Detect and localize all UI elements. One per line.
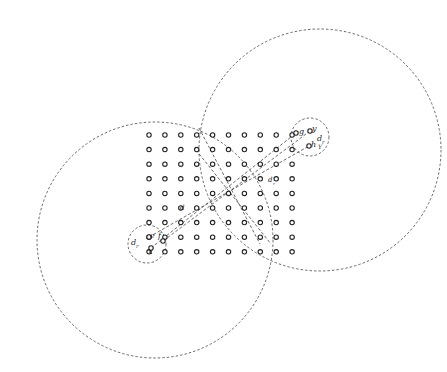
grid-point <box>274 191 278 195</box>
grid-point <box>179 162 183 166</box>
top-right-small-circle <box>291 118 329 156</box>
grid-point <box>242 235 246 239</box>
grid-point <box>147 162 151 166</box>
grid-point <box>242 220 246 224</box>
grid-point <box>163 250 167 254</box>
grid-point <box>179 235 183 239</box>
label-d-mid-2-sub: r <box>273 181 276 186</box>
grid-point <box>226 162 230 166</box>
grid-point <box>274 162 278 166</box>
line-cross-1 <box>199 128 260 244</box>
grid-point <box>258 235 262 239</box>
grid-point <box>195 191 199 195</box>
grid-point <box>210 147 214 151</box>
large-circles <box>37 29 441 358</box>
grid-point <box>210 177 214 181</box>
grid-point <box>210 162 214 166</box>
grid-point <box>163 220 167 224</box>
grid-point <box>242 147 246 151</box>
grid-point <box>195 133 199 137</box>
grid-point <box>242 177 246 181</box>
grid-point <box>210 206 214 210</box>
grid-point <box>274 133 278 137</box>
grid-point <box>210 235 214 239</box>
point-grid <box>147 133 294 254</box>
grid-point <box>242 206 246 210</box>
grid-point <box>179 250 183 254</box>
grid-point <box>163 191 167 195</box>
left-large-circle <box>37 122 273 358</box>
grid-point <box>274 235 278 239</box>
grid-point <box>290 220 294 224</box>
grid-point <box>147 133 151 137</box>
grid-point <box>290 191 294 195</box>
grid-point <box>226 133 230 137</box>
grid-point <box>290 250 294 254</box>
grid-point <box>290 235 294 239</box>
grid-point <box>258 162 262 166</box>
grid-point <box>226 250 230 254</box>
line-y-to-f <box>163 131 310 241</box>
label-h: h <box>311 140 316 149</box>
grid-point <box>195 206 199 210</box>
grid-point <box>290 162 294 166</box>
grid-point <box>179 191 183 195</box>
grid-point <box>195 162 199 166</box>
grid-point <box>179 220 183 224</box>
grid-point <box>210 191 214 195</box>
grid-point <box>195 235 199 239</box>
grid-point <box>195 147 199 151</box>
grid-point <box>258 206 262 210</box>
point-g <box>294 131 298 135</box>
grid-point <box>163 133 167 137</box>
grid-point <box>147 147 151 151</box>
right-large-circle <box>199 29 441 271</box>
label-x: x <box>148 247 153 256</box>
grid-point <box>242 162 246 166</box>
grid-point <box>274 206 278 210</box>
grid-point <box>163 162 167 166</box>
grid-point <box>147 206 151 210</box>
grid-point <box>226 177 230 181</box>
grid-point <box>179 133 183 137</box>
label-g: g <box>299 127 304 136</box>
grid-point <box>226 220 230 224</box>
grid-point <box>258 177 262 181</box>
grid-point <box>258 220 262 224</box>
label-d-top-sub: r <box>322 139 325 145</box>
grid-point <box>290 206 294 210</box>
grid-point <box>147 177 151 181</box>
grid-point <box>258 250 262 254</box>
label-d-mid: d <box>180 204 185 212</box>
label-y: y <box>311 124 317 133</box>
grid-point <box>226 206 230 210</box>
point-f <box>161 239 165 243</box>
grid-point <box>258 133 262 137</box>
grid-point <box>290 177 294 181</box>
diagram-canvas: gyhdrYefxdrddr <box>0 0 447 372</box>
grid-point <box>242 250 246 254</box>
grid-point <box>258 191 262 195</box>
label-e: e <box>150 231 155 240</box>
connecting-lines <box>149 128 310 248</box>
grid-point <box>163 206 167 210</box>
grid-point <box>147 191 151 195</box>
grid-point <box>179 147 183 151</box>
grid-point <box>210 133 214 137</box>
grid-point <box>242 133 246 137</box>
grid-point <box>210 220 214 224</box>
grid-point <box>163 177 167 181</box>
grid-point <box>195 220 199 224</box>
grid-point <box>290 147 294 151</box>
grid-point <box>226 147 230 151</box>
grid-point <box>195 177 199 181</box>
grid-point <box>147 220 151 224</box>
grid-point <box>226 191 230 195</box>
grid-point <box>179 177 183 181</box>
grid-point <box>274 250 278 254</box>
grid-point <box>226 235 230 239</box>
grid-point <box>242 191 246 195</box>
grid-point <box>274 147 278 151</box>
label-d-bottom-sub: r <box>136 243 139 249</box>
grid-point <box>258 147 262 151</box>
